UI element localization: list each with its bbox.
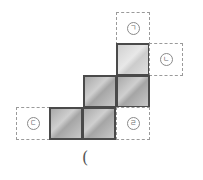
candidate-square-c: ㄷ bbox=[16, 107, 50, 140]
candidate-square-b: ㄴ bbox=[149, 43, 183, 76]
label-d: ㄹ bbox=[127, 117, 140, 130]
filled-square-3 bbox=[116, 75, 150, 108]
answer-parenthesis: ( bbox=[82, 148, 88, 167]
label-b: ㄴ bbox=[160, 53, 173, 66]
filled-square-5 bbox=[82, 107, 116, 140]
label-c: ㄷ bbox=[27, 117, 40, 130]
filled-square-4 bbox=[49, 107, 83, 140]
candidate-square-a: ㄱ bbox=[116, 12, 150, 45]
filled-square-1 bbox=[116, 43, 150, 76]
filled-square-2 bbox=[83, 75, 117, 108]
label-a: ㄱ bbox=[127, 22, 140, 35]
candidate-square-d: ㄹ bbox=[116, 107, 150, 140]
